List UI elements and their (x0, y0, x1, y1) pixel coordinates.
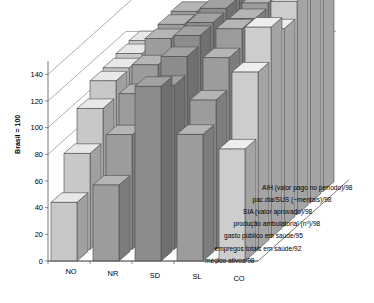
y-tick-label: 80 (35, 150, 43, 159)
bar-3d (51, 193, 88, 261)
x-tick-label: SD (150, 271, 161, 280)
bar-front-face (135, 86, 161, 261)
bar-side-face (203, 125, 214, 261)
x-tick-label: NO (65, 267, 76, 276)
bar-3d (219, 139, 256, 261)
legend-item-label: gasto público em saúde/95 (224, 232, 303, 240)
x-tick-label: NR (108, 269, 119, 278)
y-axis-title: Brasil = 100 (14, 115, 21, 154)
bar-side-face (323, 0, 334, 191)
y-tick-label: 60 (35, 177, 43, 186)
legend-item-label: empregos totais em saúde/92 (215, 245, 302, 253)
bar-side-face (297, 0, 308, 215)
bar-front-face (93, 185, 119, 261)
x-tick-label: SL (192, 272, 201, 281)
bar-3d (177, 125, 214, 261)
bar-side-face (310, 0, 321, 203)
bar-side-face (271, 18, 282, 238)
chart-container: 020406080100120140Brasil = 100NONRSDSLCO… (0, 0, 374, 303)
bar-3d (93, 175, 130, 261)
bar-side-face (161, 77, 172, 261)
legend-item-label: pac.dia/SUS (~mentais)/98 (253, 196, 332, 204)
bar-side-face (77, 193, 88, 261)
y-tick-label: 20 (35, 230, 43, 239)
bar-front-face (51, 202, 77, 261)
bar-3d (135, 77, 172, 261)
x-tick-label: CO (233, 274, 244, 283)
legend-item-label: AIH (valor pago no período)/98 (262, 184, 353, 192)
legend-item-label: SIA (valor aprovado)/98 (243, 208, 313, 216)
y-tick-label: 40 (35, 203, 43, 212)
bar-front-face (177, 134, 203, 261)
y-tick-label: 0 (39, 257, 43, 266)
y-tick-label: 100 (30, 123, 43, 132)
legend-item-label: produção ambulatorial (nº)/98 (234, 220, 321, 228)
y-tick-label: 140 (30, 70, 43, 79)
legend-item-label: médico ativos/98 (205, 257, 255, 264)
bar-chart-3d: 020406080100120140Brasil = 100NONRSDSLCO… (0, 0, 374, 303)
bar-side-face (119, 175, 130, 261)
y-tick-label: 120 (30, 97, 43, 106)
